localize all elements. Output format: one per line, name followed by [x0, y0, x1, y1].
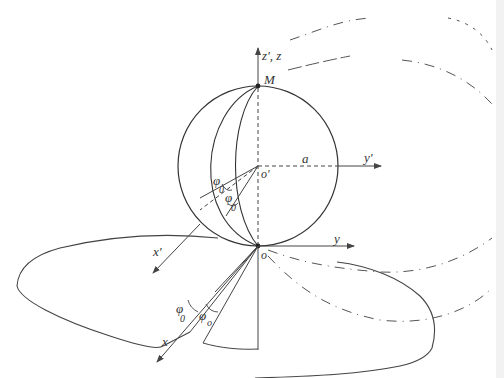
- lower-angle-arc-1: [188, 300, 198, 312]
- y-prime-label: y': [362, 150, 373, 165]
- y-label: y: [332, 231, 340, 246]
- x-label: x: [161, 334, 168, 349]
- x-prime-label: x': [152, 244, 162, 259]
- z-axis-label: z', z: [261, 48, 281, 63]
- geometry-diagram: z', z M o' a y' y o x' x φ 0 φ 0 φ 0 φ o: [0, 0, 504, 378]
- origin-label: o: [261, 248, 267, 262]
- origin-prime-label: o': [261, 167, 270, 181]
- meridian-outer: [211, 86, 258, 246]
- lower-ray-3: [215, 246, 258, 292]
- point-m-label: M: [263, 72, 276, 87]
- point-m: [256, 84, 261, 89]
- phi-lower-1-sub: 0: [180, 313, 185, 324]
- phi-upper-1-sub: 0: [219, 184, 224, 195]
- flow-lines: [268, 18, 492, 321]
- phi-lower-2-sub: o: [207, 317, 212, 328]
- lower-angle-arc-2: [206, 304, 218, 312]
- right-boundary-curve: [255, 262, 435, 378]
- phi-upper-2-sub: 0: [231, 202, 236, 213]
- radius-label: a: [302, 151, 309, 166]
- lower-ray-2: [203, 246, 258, 343]
- phi-lower-2: φ: [199, 308, 206, 323]
- outer-boundary-curve: [17, 235, 218, 347]
- meridian-inner: [236, 86, 259, 246]
- lower-base-curve: [203, 343, 258, 349]
